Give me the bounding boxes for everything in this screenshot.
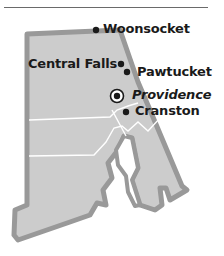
cranston-label: Cranston (135, 103, 200, 118)
central-falls-dot-icon[interactable] (118, 61, 124, 67)
pawtucket-dot-icon[interactable] (124, 69, 130, 75)
central-falls-label: Central Falls (28, 56, 117, 71)
woonsocket-label: Woonsocket (103, 21, 190, 36)
cranston-dot-icon[interactable] (123, 109, 129, 115)
rhode-island-map (0, 0, 224, 256)
pawtucket-label: Pawtucket (137, 64, 212, 79)
providence-capital-icon[interactable] (111, 90, 124, 103)
woonsocket-dot-icon[interactable] (93, 27, 99, 33)
providence-label: Providence (132, 87, 211, 102)
